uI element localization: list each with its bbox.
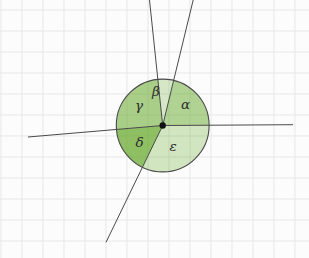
geometry-canvas: αβγδε: [0, 0, 309, 258]
angle-label-epsilon: ε: [169, 138, 176, 154]
angle-label-alpha: α: [181, 96, 190, 112]
angle-label-gamma: γ: [135, 97, 144, 113]
angle-label-delta: δ: [135, 134, 143, 150]
center-point[interactable]: [160, 122, 166, 128]
angle-label-beta: β: [151, 83, 160, 99]
angles-at-point-figure: αβγδε: [0, 0, 309, 258]
